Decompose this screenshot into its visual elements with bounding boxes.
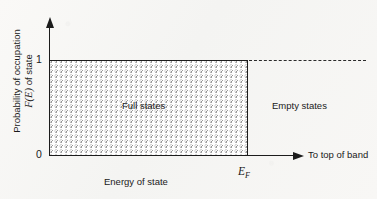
empty-states-label: Empty states xyxy=(272,101,327,111)
fermi-dirac-occupation-diagram: 1 0 Full states Empty states Energy of s… xyxy=(0,0,377,199)
band-direction-label: To top of band xyxy=(308,150,368,160)
x-axis-arrowhead-icon xyxy=(293,152,304,160)
y-axis-line xyxy=(49,26,50,156)
y-axis-title-line-2-rest: of state xyxy=(23,54,34,88)
fermi-energy-symbol: E xyxy=(238,165,245,177)
y-axis-title-line-2: F(E) of state xyxy=(23,21,35,141)
y-axis-title-line-1: Probability of occupation xyxy=(11,21,23,141)
fermi-energy-subscript: F xyxy=(245,171,250,180)
x-axis-title: Energy of state xyxy=(104,177,168,187)
fermi-energy-label: EF xyxy=(238,166,250,180)
full-states-label: Full states xyxy=(122,101,165,111)
unity-probability-dashed-line xyxy=(249,60,366,61)
occupation-step-drop-line xyxy=(247,60,248,155)
y-axis-tick-label-zero: 0 xyxy=(36,149,42,160)
y-axis-arrowhead-icon xyxy=(46,17,54,28)
y-axis-tick-label-one: 1 xyxy=(36,54,42,65)
occupation-step-top-line xyxy=(49,60,248,61)
x-axis-line xyxy=(49,155,295,156)
occupation-function-symbol: F(E) xyxy=(23,88,34,108)
y-axis-title: Probability of occupation F(E) of state xyxy=(11,21,35,141)
